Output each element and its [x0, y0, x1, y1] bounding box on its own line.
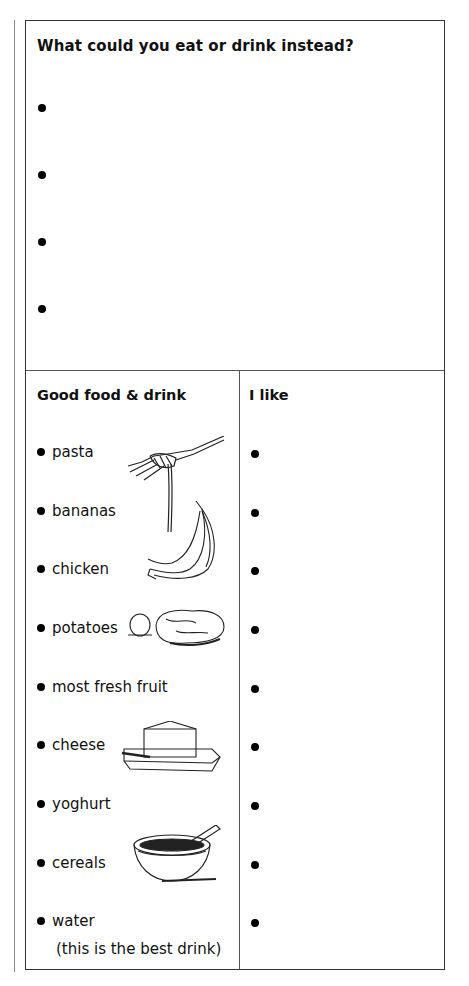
bullet	[37, 624, 45, 632]
food-item-water: water	[37, 912, 95, 930]
answer-bullet-4	[38, 305, 46, 313]
food-label: water	[52, 912, 95, 930]
food-label: chicken	[52, 560, 109, 578]
food-label: potatoes	[52, 619, 118, 637]
question-heading: What could you eat or drink instead?	[37, 37, 354, 55]
food-item-fresh-fruit: most fresh fruit	[37, 678, 168, 696]
cereal-bowl-icon	[132, 825, 222, 887]
food-item-bananas: bananas	[37, 502, 116, 520]
i-like-bullet-4	[251, 626, 259, 634]
water-note: (this is the best drink)	[56, 940, 221, 958]
i-like-bullet-5	[251, 685, 259, 693]
banana-bunch-icon	[146, 499, 226, 584]
margin-line	[14, 20, 15, 972]
i-like-bullet-2	[251, 509, 259, 517]
worksheet: What could you eat or drink instead? Goo…	[25, 20, 445, 970]
instead-box: What could you eat or drink instead?	[26, 21, 444, 371]
i-like-heading: I like	[249, 387, 288, 403]
food-item-cereals: cereals	[37, 854, 106, 872]
food-item-chicken: chicken	[37, 560, 109, 578]
i-like-bullet-1	[251, 450, 259, 458]
i-like-bullet-9	[251, 919, 259, 927]
bullet	[37, 683, 45, 691]
food-label: bananas	[52, 502, 116, 520]
food-label: most fresh fruit	[52, 678, 168, 696]
food-item-yoghurt: yoghurt	[37, 795, 111, 813]
i-like-bullet-7	[251, 802, 259, 810]
bullet	[37, 507, 45, 515]
bullet	[37, 448, 45, 456]
i-like-bullet-8	[251, 861, 259, 869]
bullet	[37, 565, 45, 573]
answer-bullet-2	[38, 171, 46, 179]
bullet	[37, 917, 45, 925]
column-divider	[239, 371, 240, 969]
answer-bullet-1	[38, 104, 46, 112]
i-like-bullet-3	[251, 567, 259, 575]
good-food-heading: Good food & drink	[37, 387, 186, 403]
bullet	[37, 741, 45, 749]
i-like-bullet-6	[251, 743, 259, 751]
bullet	[37, 859, 45, 867]
food-label: cereals	[52, 854, 106, 872]
food-label: yoghurt	[52, 795, 111, 813]
food-item-potatoes: potatoes	[37, 619, 118, 637]
food-label: pasta	[52, 443, 94, 461]
potatoes-icon	[126, 605, 226, 650]
food-item-cheese: cheese	[37, 736, 105, 754]
food-item-pasta: pasta	[37, 443, 94, 461]
answer-bullet-3	[38, 238, 46, 246]
bullet	[37, 800, 45, 808]
cheese-on-board-icon	[120, 721, 230, 781]
food-label: cheese	[52, 736, 105, 754]
